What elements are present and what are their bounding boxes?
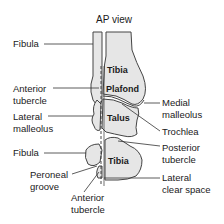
fibula-lower-shape — [85, 144, 102, 166]
label-talus: Talus — [107, 113, 130, 123]
label-lateral-malleolus-line1: Lateral — [13, 111, 42, 123]
label-lateral-clear-space-line2: clear space — [162, 184, 211, 196]
label-peroneal-groove-line2: groove — [30, 181, 59, 193]
label-fibula-lower: Fibula — [13, 147, 39, 159]
label-fibula-upper: Fibula — [13, 38, 39, 50]
label-tibia-upper: Tibia — [107, 65, 128, 75]
label-tibia-lower: Tibia — [108, 156, 129, 166]
label-medial-malleolus-line2: malleolus — [162, 109, 202, 121]
label-anterior-tubercle-upper-line1: Anterior — [13, 83, 46, 95]
label-medial-malleolus-line1: Medial — [162, 97, 190, 109]
label-plafond: Plafond — [106, 84, 139, 94]
ap-view-ankle-diagram: AP view Tibia Plafond Talus Tibia Fibula… — [0, 0, 224, 224]
label-peroneal-groove-line1: Peroneal — [30, 169, 68, 181]
leader-peroneal-groove — [72, 166, 97, 174]
leader-anterior-tubercle-lower — [84, 172, 99, 192]
diagram-title: AP view — [96, 14, 132, 25]
label-anterior-tubercle-lower-line1: Anterior — [71, 192, 104, 204]
label-posterior-tubercle-line2: tubercle — [162, 154, 196, 166]
lateral-malleolus-shape — [92, 100, 101, 131]
label-anterior-tubercle-lower-line2: tubercle — [71, 204, 105, 216]
label-posterior-tubercle-line1: Posterior — [162, 142, 200, 154]
label-trochlea: Trochlea — [162, 126, 199, 138]
label-lateral-clear-space-line1: Lateral — [162, 172, 191, 184]
fibula-upper-shape — [91, 32, 102, 108]
label-anterior-tubercle-upper-line2: tubercle — [13, 95, 47, 107]
label-lateral-malleolus-line2: malleolus — [13, 123, 53, 135]
